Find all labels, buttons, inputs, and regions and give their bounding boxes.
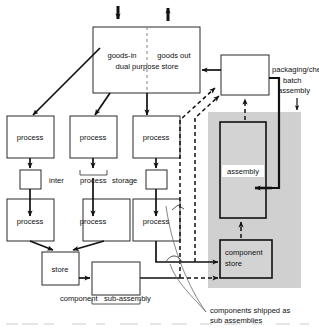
process-label-4: process: [17, 217, 44, 226]
p4-to-store-arrow: [30, 241, 53, 250]
component-sub-assembly-box[interactable]: [92, 262, 140, 295]
process-label-1: process: [17, 133, 44, 142]
inter-process-storage-box-1[interactable]: [20, 170, 41, 189]
flow-diagram-svg: goods-in goods out dual purpose store pa…: [0, 0, 319, 330]
store-to-process2-arrow: [95, 93, 110, 115]
inter-storage-word-inter: inter: [49, 176, 64, 185]
component-store-label-line2: store: [225, 259, 242, 268]
note-line1: components shipped as: [210, 306, 290, 315]
inter-storage-word-process: process: [80, 176, 107, 185]
note-leader-lower: [170, 264, 206, 312]
dual-purpose-store-label: dual purpose store: [116, 62, 179, 71]
goods-in-label: goods-in: [107, 51, 136, 60]
packaging-check-box[interactable]: [221, 55, 269, 95]
batch-label-line2: assembly: [278, 86, 310, 95]
cutoff-caption-fragment: [6, 323, 309, 325]
process-label-6: process: [143, 217, 170, 226]
store-label: store: [52, 265, 69, 274]
note-line2: sub assemblies: [210, 316, 263, 325]
goods-out-label: goods out: [157, 51, 191, 60]
sub-assembly-word-component: component: [60, 294, 98, 303]
diagram-canvas: goods-in goods out dual purpose store pa…: [0, 0, 319, 330]
dual-purpose-store-box[interactable]: [93, 27, 200, 93]
assembly-label: assembly: [227, 167, 259, 176]
process-label-3: process: [143, 133, 170, 142]
store-to-process1-arrow: [33, 48, 100, 115]
process-label-5: process: [80, 217, 107, 226]
sub-assembly-word-label: sub-assembly: [104, 294, 151, 303]
p5-to-store-arrow: [73, 241, 104, 250]
inter-storage-word-storage: storage: [112, 176, 137, 185]
batch-label-line1: batch: [283, 76, 302, 85]
process-label-2: process: [80, 133, 107, 142]
inter-process-storage-bracket: [80, 170, 107, 175]
component-store-label-line1: component: [225, 248, 263, 257]
packaging-check-label: packaging/check: [272, 65, 319, 74]
inter-process-storage-box-3[interactable]: [146, 170, 167, 189]
